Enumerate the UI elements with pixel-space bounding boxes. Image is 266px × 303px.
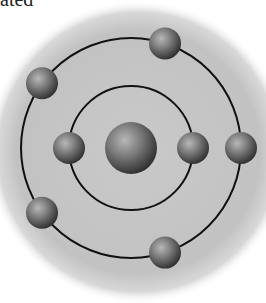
- atom-diagram: [0, 0, 266, 303]
- electron: [53, 132, 85, 164]
- nucleus: [105, 122, 157, 174]
- electron: [149, 27, 181, 59]
- electron: [177, 132, 209, 164]
- electron: [225, 132, 257, 164]
- electron: [26, 67, 58, 99]
- electron: [149, 237, 181, 269]
- electron: [26, 197, 58, 229]
